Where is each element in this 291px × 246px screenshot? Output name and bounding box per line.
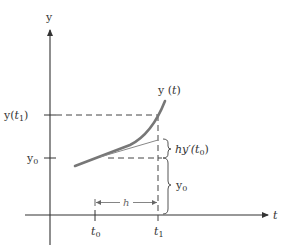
y0-label: y0 xyxy=(26,152,38,166)
tangent-line xyxy=(100,140,158,157)
t1-label: t1 xyxy=(154,225,164,239)
t0-label: t0 xyxy=(91,225,101,239)
step-label: h xyxy=(123,197,129,208)
increment-brace xyxy=(163,139,171,158)
base-height-label: y0 xyxy=(175,179,187,193)
curve-label: y (t) xyxy=(157,84,181,97)
y-t1-label: y(t1) xyxy=(3,109,28,123)
solution-curve xyxy=(75,101,165,166)
euler-method-diagram: y t y(t1) y0 t0 t1 y (t) hy′(t0) y0 h xyxy=(0,0,291,246)
y-axis-label: y xyxy=(45,11,53,24)
increment-label: hy′(t0) xyxy=(175,143,209,157)
base-height-brace xyxy=(163,158,171,214)
t-axis-label: t xyxy=(273,209,278,222)
